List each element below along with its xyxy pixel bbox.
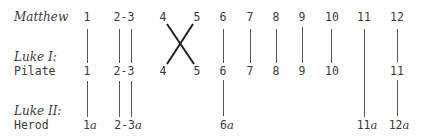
connector-lines xyxy=(0,0,430,140)
